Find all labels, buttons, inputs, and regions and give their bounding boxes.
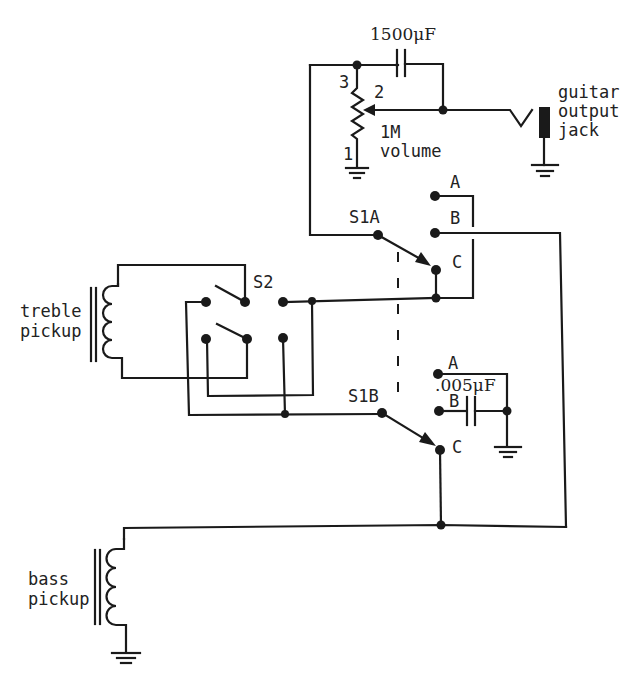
- treble-label-line-2: pickup: [20, 321, 81, 341]
- ground-icon: [532, 165, 558, 176]
- s1b-pos-a: A: [448, 353, 458, 373]
- capacitor-005uf: [467, 397, 475, 425]
- jack-label-line-1: guitar: [558, 82, 619, 102]
- treble-coil-icon: [103, 284, 247, 378]
- ground-icon: [346, 168, 368, 178]
- jack-icon: [539, 107, 550, 138]
- capacitor-005uf-label: .005μF: [435, 375, 496, 395]
- pot-name-label: volume: [380, 141, 441, 161]
- capacitor-1500uf: [396, 50, 443, 110]
- treble-pickup: treble pickup: [20, 265, 247, 378]
- switch-s1a: S1A A B C: [349, 172, 566, 527]
- switch-s2: S2: [186, 272, 436, 418]
- pot-pin-3: 3: [339, 72, 349, 92]
- wire-to-jack: [443, 110, 532, 126]
- node-tone-cap: [503, 407, 512, 416]
- bass-coil-icon: [107, 539, 127, 653]
- pot-value-label: 1M: [380, 122, 400, 142]
- volume-section: 1500μF 3 2 1 1M volume: [310, 24, 532, 235]
- wire-bottom-bus: [124, 525, 566, 539]
- circuit-diagram: 1500μF 3 2 1 1M volume: [0, 0, 640, 689]
- ground-icon: [495, 447, 521, 457]
- ground-icon: [112, 653, 140, 663]
- bass-pickup: bass pickup: [28, 539, 140, 663]
- output-jack: guitar output jack: [532, 82, 619, 176]
- jack-label-line-3: jack: [558, 120, 599, 140]
- treble-label-line-1: treble: [20, 301, 81, 321]
- pot-pin-2: 2: [374, 82, 384, 102]
- s1a-pos-b: B: [450, 208, 460, 228]
- s2-label: S2: [253, 272, 273, 292]
- s1b-pos-c: C: [452, 437, 462, 457]
- jack-label-line-2: output: [558, 101, 619, 121]
- s1b-label: S1B: [348, 386, 379, 406]
- switch-s1b: S1B A B C .005μF: [348, 353, 521, 530]
- bass-label-line-2: pickup: [28, 589, 89, 609]
- capacitor-1500uf-label: 1500μF: [370, 24, 436, 44]
- node-s2-bottom: [281, 410, 289, 418]
- s1a-pos-c: C: [452, 252, 462, 272]
- bass-label-line-1: bass: [28, 569, 69, 589]
- s1a-pos-a: A: [450, 172, 460, 192]
- pot-pin-1: 1: [343, 144, 353, 164]
- s1a-label: S1A: [349, 207, 380, 227]
